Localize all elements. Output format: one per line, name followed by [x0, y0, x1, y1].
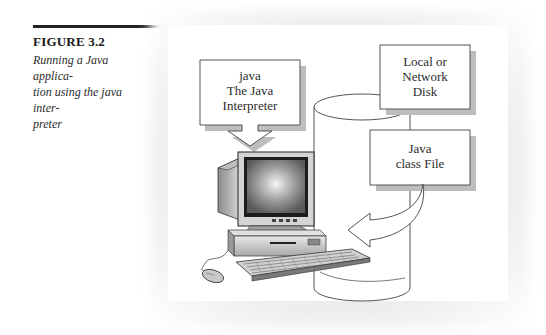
class-file-line-1: Java — [370, 141, 470, 156]
disk-line-3: Disk — [380, 84, 470, 99]
desktop-computer-icon — [218, 152, 326, 256]
class-file-line-2: class File — [370, 156, 470, 171]
class-file-label: Java class File — [370, 141, 470, 171]
interpreter-line-2: The Java — [200, 83, 300, 98]
cylinder-disk-icon — [314, 94, 410, 301]
interpreter-line-3: Interpreter — [200, 98, 300, 113]
interpreter-label: java The Java Interpreter — [200, 68, 300, 113]
disk-line-2: Network — [380, 69, 470, 84]
mouse-icon — [201, 250, 228, 285]
disk-label: Local or Network Disk — [380, 54, 470, 99]
disk-line-1: Local or — [380, 54, 470, 69]
interpreter-line-1: java — [200, 68, 300, 83]
